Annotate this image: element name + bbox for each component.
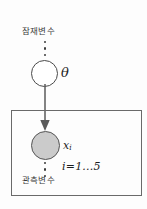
dot-icon [44, 168, 46, 170]
observed-node-x [31, 131, 60, 160]
dot-icon [44, 54, 46, 56]
dot-icon [44, 162, 46, 164]
latent-node-theta [31, 60, 58, 87]
x-symbol-subscript: i [69, 143, 71, 152]
dot-icon [44, 41, 46, 43]
x-symbol-label: xi [63, 139, 72, 152]
dot-icon [44, 47, 46, 49]
latent-variable-label: 잠재변수 [22, 27, 55, 36]
theta-symbol-label: θ [61, 65, 69, 80]
observed-variable-label: 관측변수 [22, 176, 55, 185]
plate-index-label: i=1...5 [62, 160, 101, 173]
plate-diagram-canvas: 잠재변수 θ xi i=1...5 관측변수 [0, 0, 147, 209]
latent-ellipsis-icon [44, 41, 46, 56]
